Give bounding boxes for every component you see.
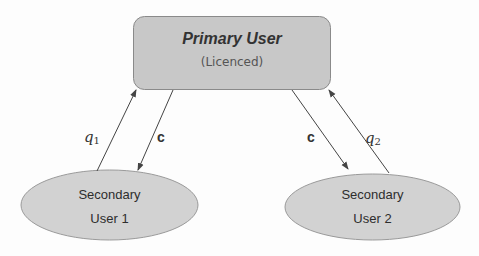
edge-label-c-left: c (157, 129, 165, 145)
secondary-user-1-line2: User 1 (21, 207, 198, 231)
arrow-c-right (292, 90, 348, 169)
edge-label-c-right-text: c (307, 129, 315, 145)
arrow-q1 (97, 90, 136, 171)
secondary-user-2-label: Secondary User 2 (285, 183, 460, 231)
secondary-user-2-line2: User 2 (285, 207, 460, 231)
arrow-c-left (138, 90, 173, 170)
edge-label-q2-main: q (365, 129, 375, 147)
edge-label-q1: q1 (84, 128, 100, 146)
edge-label-q1-sub: 1 (94, 135, 100, 146)
primary-user-box (134, 17, 331, 90)
diagram-canvas: Primary User (Licenced) Secondary User 1… (0, 0, 479, 256)
edge-label-c-left-text: c (157, 129, 165, 145)
secondary-user-2-line1: Secondary (285, 183, 460, 207)
edge-label-q2-sub: 2 (375, 136, 381, 147)
edge-label-q1-main: q (84, 128, 94, 146)
edge-label-q2: q2 (365, 129, 381, 147)
primary-user-title: Primary User (133, 30, 331, 48)
secondary-user-1-label: Secondary User 1 (21, 183, 198, 231)
primary-user-subtitle: (Licenced) (133, 55, 331, 69)
secondary-user-1-line1: Secondary (21, 183, 198, 207)
edge-label-c-right: c (307, 129, 315, 145)
